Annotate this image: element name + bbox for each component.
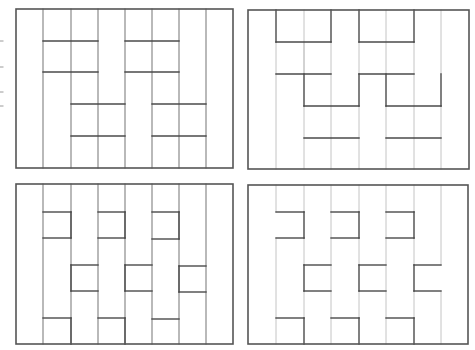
panel-top-left <box>16 9 233 168</box>
panel-top-right <box>248 10 469 169</box>
left-margin-ticks <box>0 41 3 106</box>
panel-bottom-left <box>16 184 233 344</box>
panel-bottom-right <box>248 185 468 344</box>
grid-patterns-figure <box>0 0 475 350</box>
